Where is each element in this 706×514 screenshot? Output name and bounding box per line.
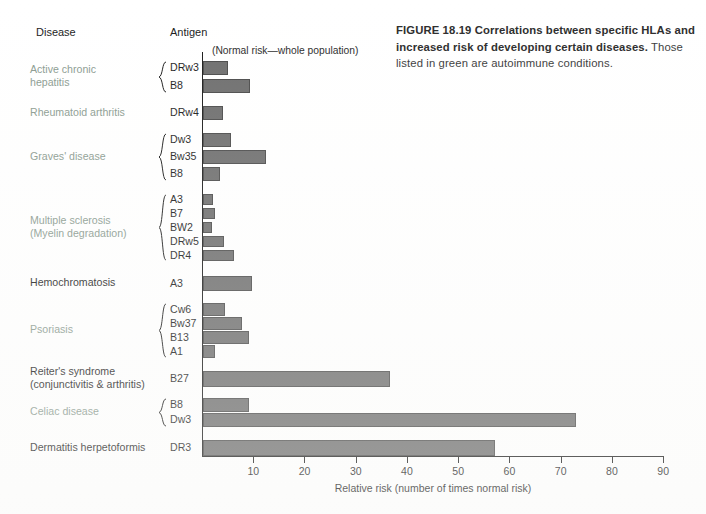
disease-label: Reiter's syndrome (conjunctivitis & arth… bbox=[30, 365, 145, 391]
bar bbox=[203, 371, 390, 387]
column-header-disease: Disease bbox=[36, 26, 76, 38]
bar bbox=[203, 106, 223, 120]
antigen-label: B27 bbox=[170, 372, 189, 384]
antigen-label: Bw37 bbox=[170, 317, 197, 329]
disease-label: Hemochromatosis bbox=[30, 276, 115, 289]
antigen-label: DRw3 bbox=[170, 61, 199, 73]
x-tick-label-30: 30 bbox=[350, 465, 362, 477]
antigen-label: Dw3 bbox=[170, 133, 191, 145]
antigen-label: B7 bbox=[170, 207, 183, 219]
bar bbox=[203, 150, 266, 164]
antigen-label: B8 bbox=[170, 167, 183, 179]
antigen-group-brace bbox=[158, 133, 167, 181]
antigen-label: B13 bbox=[170, 331, 189, 343]
figure-caption: FIGURE 18.19 Correlations between specif… bbox=[396, 22, 696, 72]
x-tick-label-90: 90 bbox=[657, 465, 669, 477]
figure-number: FIGURE 18.19 bbox=[396, 24, 471, 36]
hla-disease-risk-chart: Disease Antigen (Normal risk—whole popul… bbox=[0, 0, 706, 514]
antigen-label: A3 bbox=[170, 277, 183, 289]
x-tick-label-70: 70 bbox=[555, 465, 567, 477]
x-tick-label-20: 20 bbox=[299, 465, 311, 477]
antigen-label: Bw35 bbox=[170, 150, 197, 162]
disease-label: Dermatitis herpetoformis bbox=[30, 441, 145, 454]
antigen-label: Dw3 bbox=[170, 413, 191, 425]
bar bbox=[203, 61, 228, 75]
bar bbox=[203, 79, 250, 93]
disease-label: Rheumatoid arthritis bbox=[30, 106, 125, 119]
disease-label: Psoriasis bbox=[30, 323, 73, 336]
disease-label: Active chronic hepatitis bbox=[30, 63, 96, 89]
bar bbox=[203, 167, 220, 181]
x-tick-label-80: 80 bbox=[606, 465, 618, 477]
bar bbox=[203, 250, 234, 261]
x-tick-label-50: 50 bbox=[452, 465, 464, 477]
bar bbox=[203, 194, 213, 205]
bar bbox=[203, 222, 212, 233]
bar bbox=[203, 345, 215, 358]
antigen-group-brace bbox=[158, 61, 167, 93]
antigen-group-brace bbox=[158, 303, 167, 358]
bar bbox=[203, 236, 224, 247]
x-tick-80 bbox=[612, 457, 613, 463]
antigen-label: DR4 bbox=[170, 249, 191, 261]
antigen-label: DR3 bbox=[170, 441, 191, 453]
x-tick-20 bbox=[304, 457, 305, 463]
bar bbox=[203, 303, 225, 316]
bar bbox=[203, 317, 242, 330]
disease-label: Multiple sclerosis (Myelin degradation) bbox=[30, 214, 127, 240]
x-tick-70 bbox=[561, 457, 562, 463]
x-tick-40 bbox=[407, 457, 408, 463]
x-tick-label-10: 10 bbox=[247, 465, 259, 477]
antigen-label: DRw4 bbox=[170, 106, 199, 118]
antigen-group-brace bbox=[158, 398, 167, 427]
x-tick-30 bbox=[356, 457, 357, 463]
x-tick-10 bbox=[253, 457, 254, 463]
bar bbox=[203, 440, 495, 456]
x-axis-line bbox=[202, 456, 664, 457]
bar bbox=[203, 276, 252, 291]
column-header-antigen: Antigen bbox=[170, 26, 207, 38]
x-tick-50 bbox=[458, 457, 459, 463]
antigen-label: A1 bbox=[170, 345, 183, 357]
antigen-label: BW2 bbox=[170, 221, 193, 233]
x-axis-title: Relative risk (number of times normal ri… bbox=[335, 482, 532, 494]
antigen-label: DRw5 bbox=[170, 235, 199, 247]
normal-risk-note: (Normal risk—whole population) bbox=[212, 45, 359, 56]
bar bbox=[203, 331, 249, 344]
x-tick-60 bbox=[509, 457, 510, 463]
disease-label: Celiac disease bbox=[30, 405, 99, 418]
bar bbox=[203, 398, 249, 412]
antigen-label: B8 bbox=[170, 398, 183, 410]
bar bbox=[203, 208, 215, 219]
x-tick-90 bbox=[663, 457, 664, 463]
antigen-label: B8 bbox=[170, 79, 183, 91]
antigen-label: A3 bbox=[170, 193, 183, 205]
antigen-label: Cw6 bbox=[170, 303, 191, 315]
x-tick-label-60: 60 bbox=[504, 465, 516, 477]
disease-label: Graves' disease bbox=[30, 150, 106, 163]
antigen-group-brace bbox=[158, 194, 167, 261]
bar bbox=[203, 413, 576, 427]
bar bbox=[203, 133, 231, 147]
x-tick-label-40: 40 bbox=[401, 465, 413, 477]
